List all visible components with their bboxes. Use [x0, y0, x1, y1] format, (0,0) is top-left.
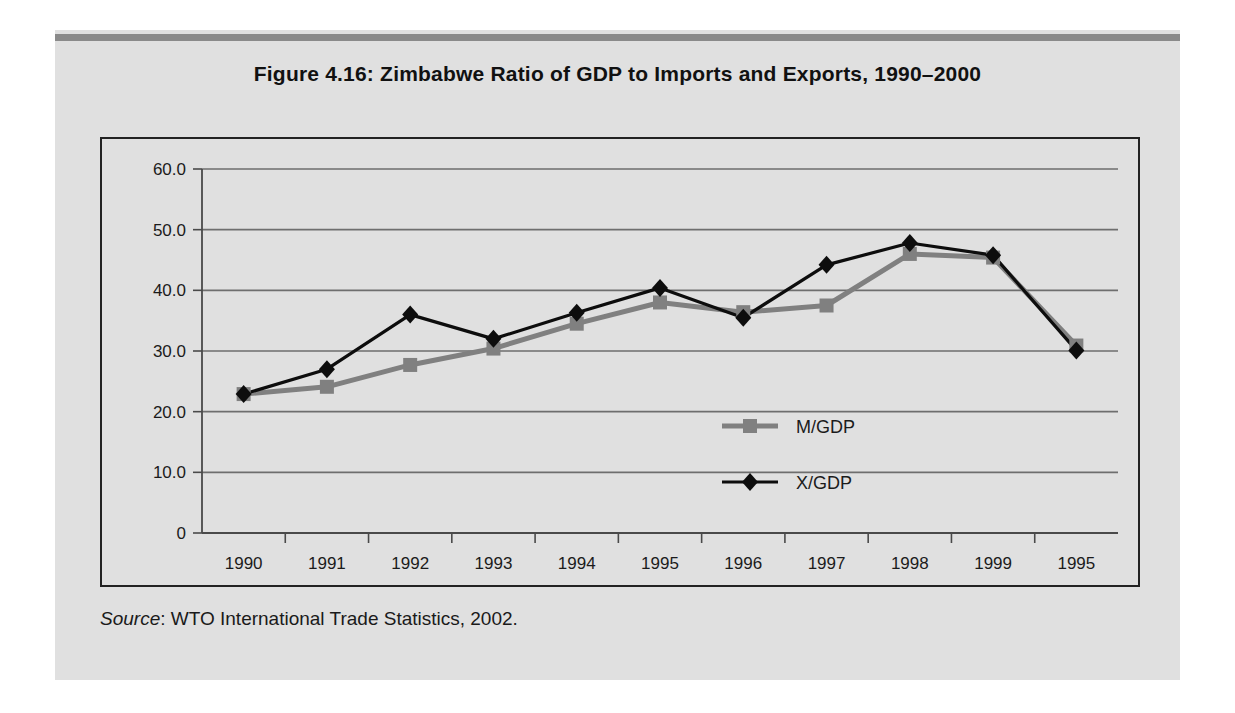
legend-label: X/GDP	[796, 473, 852, 493]
legend-label: M/GDP	[796, 417, 855, 437]
y-axis-tick-label: 40.0	[153, 281, 186, 300]
x-axis-tick-label: 1992	[391, 554, 429, 573]
series-point-m-gdp-marker	[403, 358, 417, 372]
series-line-m-gdp	[244, 254, 1077, 394]
series-point-x-gdp-marker	[819, 256, 835, 274]
x-axis: 1990199119921993199419951996199719981999…	[202, 533, 1118, 573]
x-axis-tick-label: 1994	[558, 554, 596, 573]
legend-swatch-marker	[743, 419, 757, 433]
series-point-x-gdp-marker	[652, 279, 668, 297]
top-rule-divider	[55, 34, 1180, 41]
series-group	[236, 234, 1085, 403]
x-axis-tick-label: 1998	[891, 554, 929, 573]
figure-page: Figure 4.16: Zimbabwe Ratio of GDP to Im…	[0, 0, 1235, 713]
y-axis-tick-label: 0	[177, 524, 186, 543]
legend-swatch-marker	[742, 473, 758, 491]
x-axis-tick-label: 1995	[641, 554, 679, 573]
series-point-x-gdp-marker	[319, 360, 335, 378]
y-axis-tick-label: 20.0	[153, 403, 186, 422]
x-axis-tick-label: 1997	[808, 554, 846, 573]
series-point-m-gdp-marker	[820, 299, 834, 313]
series-line-x-gdp	[244, 243, 1077, 394]
y-axis-tick-label: 30.0	[153, 342, 186, 361]
gridlines-group	[202, 169, 1118, 472]
chart-plot-container: 010.020.030.040.050.060.0 19901991199219…	[100, 137, 1140, 587]
x-axis-tick-label: 1990	[225, 554, 263, 573]
x-axis-tick-label: 1999	[974, 554, 1012, 573]
line-chart: 010.020.030.040.050.060.0 19901991199219…	[102, 139, 1138, 585]
chart-legend: M/GDPX/GDP	[722, 417, 855, 493]
series-point-m-gdp-marker	[320, 380, 334, 394]
y-axis: 010.020.030.040.050.060.0	[153, 160, 202, 543]
source-note: Source: WTO International Trade Statisti…	[100, 608, 518, 630]
x-axis-tick-label: 1996	[724, 554, 762, 573]
series-point-x-gdp-marker	[402, 306, 418, 324]
x-axis-tick-label: 1993	[475, 554, 513, 573]
x-axis-tick-label: 1995	[1057, 554, 1095, 573]
source-text: : WTO International Trade Statistics, 20…	[160, 608, 518, 629]
y-axis-tick-label: 60.0	[153, 160, 186, 179]
y-axis-tick-label: 10.0	[153, 463, 186, 482]
figure-title: Figure 4.16: Zimbabwe Ratio of GDP to Im…	[55, 62, 1180, 86]
x-axis-tick-label: 1991	[308, 554, 346, 573]
source-label: Source	[100, 608, 160, 629]
series-point-m-gdp-marker	[653, 295, 667, 309]
y-axis-tick-label: 50.0	[153, 221, 186, 240]
